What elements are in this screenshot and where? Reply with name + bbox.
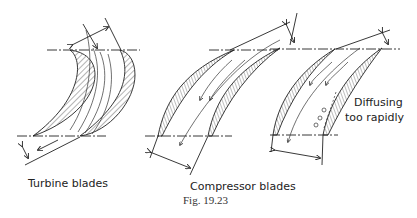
compressor-throat-dimension [150, 152, 190, 168]
turbine-pitch-dimension [72, 27, 108, 45]
separation-eddy [314, 123, 318, 127]
separation-eddy [322, 108, 326, 112]
turbine-throat-dimension [22, 146, 28, 158]
compressor-label: Compressor blades [190, 180, 296, 193]
diffusing-streamline [326, 62, 348, 85]
diffusing-construction-line [322, 135, 323, 165]
turbine-outlet-line-ext [25, 137, 80, 165]
compressor-blade-left [158, 50, 234, 136]
turbine-outlet-arrow [38, 140, 58, 150]
diffusing-construction-line [271, 135, 273, 152]
diffusing-angle-dimension [382, 32, 388, 44]
turbine-construction-line [105, 18, 121, 50]
compressor-inlet-ext [230, 22, 290, 50]
turbine-panel: Turbine blades [17, 18, 140, 190]
diffusing-annotation-line1: Diffusing [354, 96, 403, 109]
compressor-panel: Compressor blades [145, 22, 296, 193]
turbine-label: Turbine blades [27, 177, 108, 190]
figure-caption: Fig. 19.23 [183, 194, 228, 206]
blade-diagram: Turbine blades Compressor blades [0, 0, 417, 218]
separation-eddy [318, 116, 322, 120]
diffusing-panel: Diffusing too rapidly [270, 13, 405, 165]
compressor-construction-line [190, 136, 208, 175]
diffusing-throat-dimension [274, 150, 320, 158]
diffusing-annotation-line2: too rapidly [345, 111, 405, 124]
diffusing-inlet-ext [336, 30, 390, 49]
